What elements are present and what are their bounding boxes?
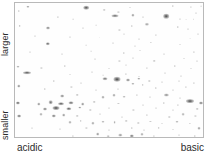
protein-spot xyxy=(43,107,47,110)
protein-spot xyxy=(89,109,91,111)
protein-spot xyxy=(119,134,122,137)
protein-spot xyxy=(81,103,85,106)
protein-spot xyxy=(199,101,203,104)
protein-spot xyxy=(164,94,168,97)
protein-spot xyxy=(148,80,150,82)
protein-spot xyxy=(145,23,149,25)
protein-spot xyxy=(76,115,79,117)
protein-spot xyxy=(117,103,119,105)
protein-spot xyxy=(72,18,74,20)
protein-spot xyxy=(70,86,72,88)
protein-spot xyxy=(175,120,178,122)
protein-spot xyxy=(137,122,139,124)
protein-spot xyxy=(103,77,108,81)
protein-spot xyxy=(172,5,174,7)
protein-spot-layer xyxy=(15,3,203,137)
protein-spot xyxy=(139,50,141,52)
protein-spot xyxy=(179,97,181,99)
protein-spot xyxy=(40,113,43,115)
protein-spot xyxy=(16,65,19,68)
protein-spot xyxy=(82,28,84,30)
protein-spot xyxy=(118,60,120,62)
protein-spot xyxy=(102,75,104,77)
protein-spot xyxy=(163,53,165,55)
protein-spot xyxy=(102,120,105,122)
protein-spot xyxy=(137,77,140,80)
protein-spot xyxy=(129,134,133,137)
protein-spot xyxy=(190,6,192,8)
protein-spot xyxy=(95,89,97,91)
protein-spot xyxy=(150,42,152,44)
protein-spot xyxy=(113,121,116,123)
protein-spot xyxy=(190,68,192,70)
protein-spot xyxy=(23,71,31,75)
protein-spot xyxy=(108,107,110,109)
protein-spot xyxy=(114,77,121,81)
protein-spot xyxy=(57,16,59,18)
protein-spot xyxy=(111,14,118,17)
protein-spot xyxy=(69,36,71,38)
protein-spot xyxy=(187,28,189,30)
protein-spot xyxy=(143,129,145,131)
protein-spot xyxy=(176,26,178,28)
protein-spot xyxy=(178,134,180,136)
protein-spot xyxy=(91,122,94,125)
protein-spot xyxy=(134,45,136,47)
protein-spot xyxy=(164,14,170,19)
protein-spot xyxy=(174,65,176,67)
protein-spot xyxy=(46,42,50,46)
protein-spot xyxy=(16,101,20,104)
protein-spot xyxy=(27,6,30,8)
y-axis-label-smaller-text: smaller xyxy=(0,110,10,140)
protein-spot xyxy=(126,79,130,82)
protein-spot xyxy=(183,58,185,60)
protein-spot xyxy=(66,107,71,111)
protein-spot xyxy=(146,67,148,69)
protein-spot xyxy=(155,34,157,36)
protein-spot xyxy=(131,83,134,85)
protein-spot xyxy=(96,133,100,136)
protein-spot xyxy=(140,133,143,135)
protein-spot xyxy=(95,24,97,26)
protein-spot xyxy=(193,19,195,21)
protein-spot xyxy=(172,109,174,111)
protein-spot xyxy=(155,107,157,109)
protein-spot xyxy=(78,106,81,109)
protein-spot xyxy=(80,82,82,84)
protein-spot xyxy=(18,10,20,12)
protein-spot xyxy=(76,94,79,96)
protein-spot xyxy=(123,52,125,54)
protein-spot xyxy=(193,82,195,84)
protein-spot xyxy=(193,51,195,53)
protein-spot xyxy=(125,64,127,66)
protein-spot xyxy=(93,101,96,103)
protein-spot xyxy=(84,5,90,10)
protein-spot xyxy=(90,50,92,52)
protein-spot xyxy=(85,127,87,129)
protein-spot xyxy=(80,120,83,122)
protein-spot xyxy=(64,65,66,67)
protein-spot xyxy=(34,35,36,37)
protein-spot xyxy=(172,129,174,131)
protein-spot xyxy=(198,127,201,129)
protein-spot xyxy=(17,85,20,88)
protein-spot xyxy=(58,102,64,106)
protein-spot xyxy=(142,16,144,18)
protein-spot xyxy=(118,29,120,31)
protein-spot xyxy=(142,84,145,86)
protein-spot xyxy=(142,104,144,106)
protein-spot xyxy=(99,113,101,115)
protein-spot xyxy=(153,60,156,62)
protein-spot xyxy=(177,104,179,106)
protein-spot xyxy=(186,100,194,104)
protein-spot xyxy=(94,58,96,60)
protein-spot xyxy=(86,44,88,46)
protein-spot xyxy=(91,71,93,73)
protein-spot xyxy=(117,11,119,13)
protein-spot xyxy=(108,129,110,131)
protein-spot xyxy=(18,25,21,27)
protein-spot xyxy=(46,26,50,29)
protein-spot xyxy=(102,96,105,99)
protein-spot xyxy=(117,89,119,91)
protein-spot xyxy=(125,73,127,75)
